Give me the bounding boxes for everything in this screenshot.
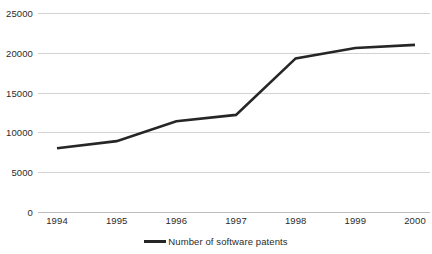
y-tick-label-10000: 10000 bbox=[6, 127, 33, 138]
gridline-0 bbox=[38, 212, 430, 213]
y-tick-label-20000: 20000 bbox=[6, 47, 33, 58]
legend-line-swatch bbox=[144, 240, 166, 243]
y-tick-label-25000: 25000 bbox=[6, 8, 33, 19]
series-layer bbox=[38, 13, 430, 212]
y-tick-label-5000: 5000 bbox=[11, 167, 33, 178]
series-line-0 bbox=[57, 45, 415, 148]
x-tick-label-2000: 2000 bbox=[404, 215, 426, 226]
y-tick-label-15000: 15000 bbox=[6, 87, 33, 98]
x-axis-tick-labels: 1994199519961997199819992000 bbox=[38, 215, 430, 231]
x-tick-label-1996: 1996 bbox=[166, 215, 188, 226]
y-tick-label-0: 0 bbox=[28, 207, 33, 218]
x-tick-label-1999: 1999 bbox=[345, 215, 367, 226]
x-tick-label-1995: 1995 bbox=[106, 215, 128, 226]
legend-label: Number of software patents bbox=[168, 236, 287, 247]
plot-area bbox=[38, 13, 430, 212]
x-tick-label-1997: 1997 bbox=[225, 215, 247, 226]
x-tick-label-1994: 1994 bbox=[46, 215, 68, 226]
x-tick-label-1998: 1998 bbox=[285, 215, 307, 226]
y-axis-tick-labels: 0500010000150002000025000 bbox=[0, 0, 33, 254]
line-chart: 0500010000150002000025000 19941995199619… bbox=[0, 0, 432, 254]
chart-legend: Number of software patents bbox=[0, 236, 432, 247]
